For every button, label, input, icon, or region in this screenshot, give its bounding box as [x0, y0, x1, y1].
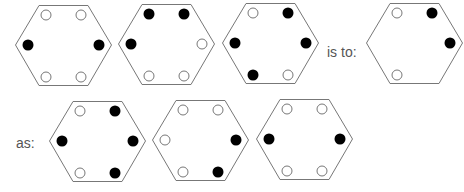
- filled-dot-right: [301, 38, 312, 49]
- open-dot-bottom-left: [75, 168, 85, 178]
- hexagon-B1: [49, 101, 146, 182]
- open-dot-bottom-left: [41, 72, 51, 82]
- filled-dot-bottom-right: [110, 168, 121, 179]
- open-dot-top-left: [41, 10, 51, 20]
- open-dot-top-left: [178, 105, 188, 115]
- filled-dot-left: [230, 38, 241, 49]
- filled-dot-left: [23, 40, 34, 51]
- filled-dot-left: [57, 136, 68, 147]
- open-dot-top-left: [282, 104, 292, 114]
- filled-dot-right: [94, 40, 105, 51]
- open-dot-bottom-right: [76, 72, 86, 82]
- open-dot-top-left: [392, 8, 402, 18]
- open-dot-top-left: [75, 106, 85, 116]
- open-dot-bottom-left: [282, 166, 292, 176]
- filled-dot-bottom-left: [248, 70, 259, 81]
- open-dot-right: [197, 39, 207, 49]
- hexagon-A2: [118, 4, 215, 85]
- filled-dot-top-right: [283, 8, 294, 19]
- open-dot-top-right: [76, 10, 86, 20]
- filled-dot-top-left: [144, 9, 155, 20]
- filled-dot-top-right: [179, 9, 190, 20]
- hexagon-B2: [152, 100, 249, 181]
- open-dot-top-right: [213, 105, 223, 115]
- filled-dot-right: [231, 135, 242, 146]
- filled-dot-bottom-right: [213, 167, 224, 178]
- open-dot-bottom-right: [179, 71, 189, 81]
- open-dot-top-right: [317, 104, 327, 114]
- filled-dot-top-right: [110, 106, 121, 117]
- filled-dot-top-right: [427, 8, 438, 19]
- hexagon-A1: [15, 5, 112, 86]
- open-dot-bottom-left: [178, 167, 188, 177]
- hexagon-A4: [366, 3, 463, 84]
- open-dot-bottom-left: [392, 70, 402, 80]
- open-dot-left: [160, 135, 170, 145]
- filled-dot-right: [128, 136, 139, 147]
- open-dot-top-left: [248, 8, 258, 18]
- filled-dot-left: [126, 39, 137, 50]
- open-dot-bottom-right: [283, 70, 293, 80]
- as-label: as:: [16, 136, 35, 150]
- hexagon-A3: [222, 3, 319, 84]
- open-dot-bottom-left: [144, 71, 154, 81]
- filled-dot-right: [445, 38, 456, 49]
- filled-dot-right: [335, 134, 346, 145]
- hexagon-B3: [256, 99, 353, 180]
- is-to-label: is to:: [327, 45, 357, 59]
- filled-dot-left: [264, 134, 275, 145]
- open-dot-bottom-right: [317, 166, 327, 176]
